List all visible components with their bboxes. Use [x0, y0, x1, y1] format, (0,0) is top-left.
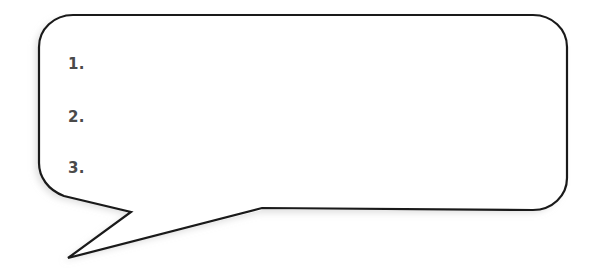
list-item[interactable]: 1. — [68, 56, 96, 72]
speech-bubble-canvas: 1. 2. 3. — [0, 0, 599, 268]
list-item-marker-1: 1. — [68, 56, 85, 72]
list-item[interactable]: 3. — [68, 160, 96, 176]
list-item-marker-2: 2. — [68, 109, 85, 125]
list-item[interactable]: 2. — [68, 109, 96, 125]
list-item-marker-3: 3. — [68, 160, 85, 176]
numbered-list: 1. 2. 3. — [0, 0, 599, 268]
